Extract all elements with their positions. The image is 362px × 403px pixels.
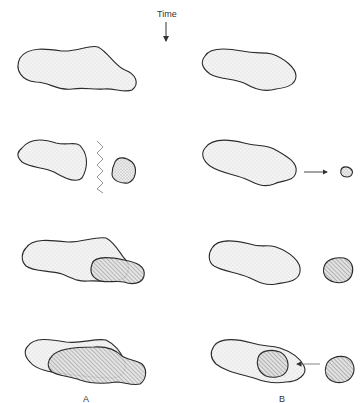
column-label-b: B: [279, 394, 285, 403]
a-row1-body: [18, 46, 136, 91]
b-row1-body: [202, 49, 296, 91]
fracture-zigzag-icon: [97, 141, 103, 193]
a-row2-fragment: [112, 158, 135, 183]
b-row3-body: [209, 241, 300, 285]
a-row4-hatched-body: [48, 347, 145, 385]
b-row2-body: [203, 140, 297, 186]
b-row4-engulfed-body: [257, 350, 288, 377]
b-row3-hatched-body: [323, 258, 352, 283]
column-label-a: A: [83, 394, 89, 403]
time-indicator: Time: [157, 9, 177, 41]
time-label: Time: [157, 9, 177, 19]
b-row4-hatched-body: [325, 356, 354, 382]
a-row3-hatched-body: [91, 258, 144, 284]
b-row2-small-body: [341, 167, 353, 177]
diagram-canvas: Time A B: [0, 0, 362, 403]
a-row2-body: [18, 140, 87, 180]
